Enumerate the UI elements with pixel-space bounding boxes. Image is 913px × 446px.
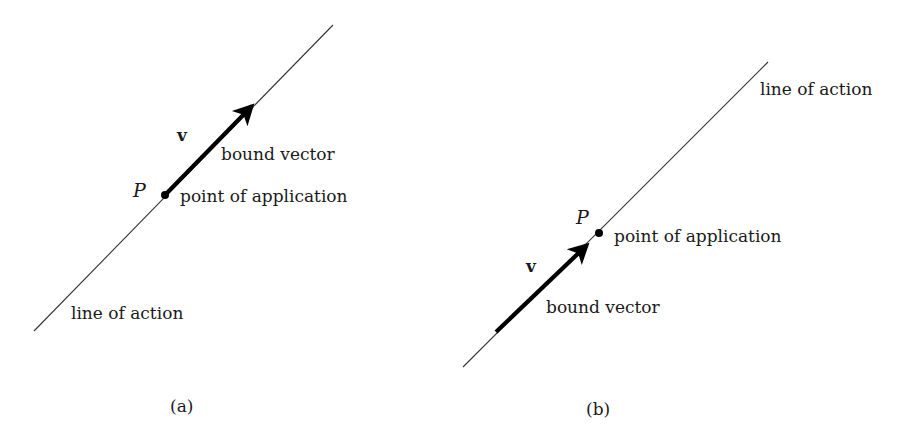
point-of-application-dot-b <box>595 229 603 237</box>
diagram-canvas <box>0 0 913 446</box>
point-of-application-label-b: point of application <box>614 228 782 245</box>
panel-a-drawing <box>34 25 333 331</box>
bound-vector-label-a: bound vector <box>221 146 335 163</box>
vector-label-a: v <box>177 127 187 144</box>
bound-vector-label-b: bound vector <box>546 299 660 316</box>
point-label-a: P <box>133 181 146 200</box>
panel-caption-b: (b) <box>586 401 610 418</box>
vector-label-b: v <box>526 258 536 275</box>
bound-vector-figure: v bound vector P point of application li… <box>0 0 913 446</box>
point-of-application-dot-a <box>161 191 169 199</box>
point-label-b: P <box>576 208 589 227</box>
line-of-action-label-a: line of action <box>71 305 183 322</box>
bound-vector-arrow-b <box>496 245 587 332</box>
panel-b-drawing <box>463 62 768 367</box>
point-of-application-label-a: point of application <box>180 188 348 205</box>
panel-caption-a: (a) <box>170 398 193 415</box>
line-of-action-label-b: line of action <box>760 81 872 98</box>
